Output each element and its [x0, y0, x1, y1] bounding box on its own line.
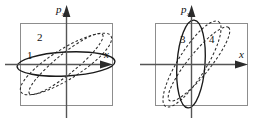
right-x-axis-label: x [238, 48, 244, 60]
left-phase-plot: p x x 1 2 [5, 3, 119, 118]
right-y-axis-label: p [180, 3, 187, 15]
left-curve-label-1: 1 [27, 49, 33, 61]
right-curve-label-4: 4 [209, 33, 215, 45]
left-curve-label-2: 2 [37, 31, 43, 43]
right-x-axis-arrowhead [235, 61, 248, 69]
figure-root: p x x 1 2 p x x [0, 0, 264, 122]
phase-space-diagram: p x x 1 2 p x x [0, 0, 264, 122]
right-curve-label-3: 3 [180, 33, 186, 45]
left-y-axis-label: p [55, 3, 62, 15]
left-x-axis-label: x [103, 48, 109, 60]
right-phase-plot: p x x 3 4 [140, 3, 248, 118]
